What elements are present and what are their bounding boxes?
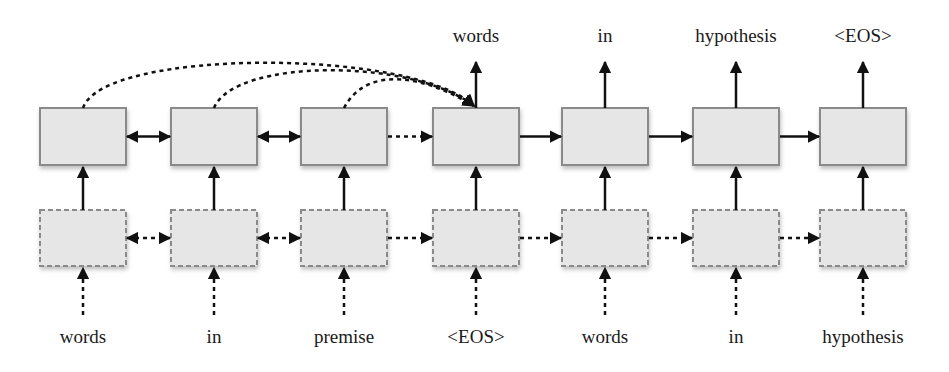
connection-arrows: [83, 62, 863, 315]
bottom-embedding-cell: [820, 210, 906, 266]
output-word-label: <EOS>: [834, 26, 891, 45]
attention-arc-icon: [83, 63, 474, 108]
input-word-label: premise: [314, 327, 374, 346]
input-word-label: <EOS>: [447, 327, 504, 346]
input-word-label: in: [729, 327, 744, 346]
bottom-embedding-cell: [433, 210, 519, 266]
attention-arc-icon: [214, 70, 474, 108]
top-rnn-cell: [820, 108, 906, 165]
bottom-embedding-cell: [301, 210, 387, 266]
top-rnn-cell: [301, 108, 387, 165]
bottom-embedding-cell: [171, 210, 257, 266]
input-word-label: words: [582, 327, 628, 346]
top-rnn-cell: [562, 108, 648, 165]
bottom-embedding-cell: [40, 210, 126, 266]
output-word-label: words: [453, 26, 499, 45]
input-word-label: hypothesis: [822, 327, 903, 346]
bottom-embedding-cell: [562, 210, 648, 266]
bottom-embedding-cell: [693, 210, 779, 266]
output-word-label: in: [598, 26, 613, 45]
input-word-label: in: [207, 327, 222, 346]
input-word-label: words: [60, 327, 106, 346]
output-word-label: hypothesis: [695, 26, 776, 45]
top-rnn-cell: [40, 108, 126, 165]
attention-arcs: [83, 63, 474, 108]
rnn-attention-diagram: [0, 0, 949, 372]
top-rnn-cell: [171, 108, 257, 165]
top-rnn-cell: [693, 108, 779, 165]
top-rnn-cell: [433, 108, 519, 165]
